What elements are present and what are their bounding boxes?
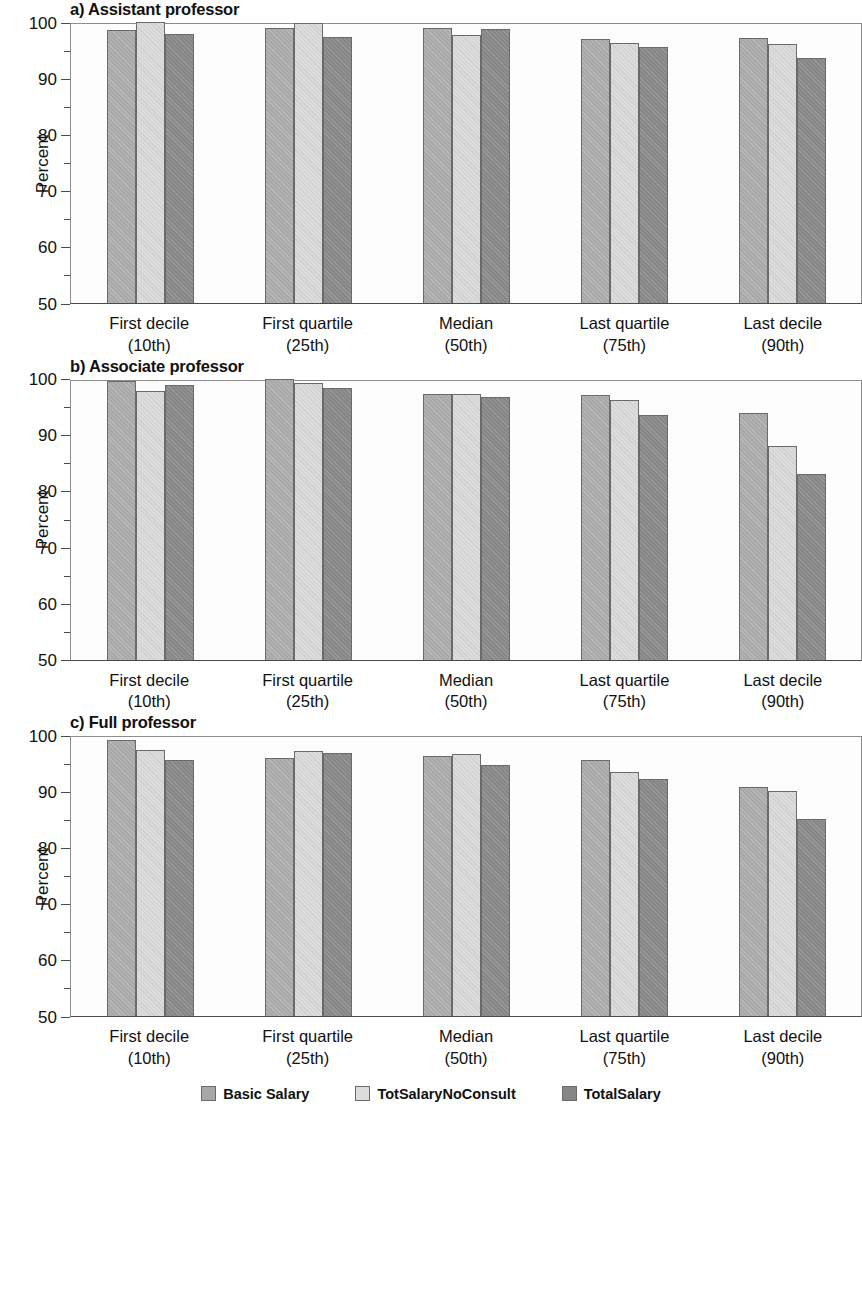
bar-a-3-1 (423, 28, 452, 303)
panel-c-group-1 (71, 737, 229, 1016)
legend-swatch-icon-1 (201, 1086, 216, 1101)
panel-b: b) Associate professor Percent 506070809… (0, 357, 862, 714)
bar-b-5-2 (768, 446, 797, 660)
legend-item-1: Basic Salary (201, 1086, 309, 1102)
panel-b-xlabel-4: Last quartile(75th) (545, 670, 703, 714)
bar-b-4-3 (639, 415, 668, 659)
legend-swatch-icon-3 (562, 1086, 577, 1101)
panel-b-xlabel-3: Median(50th) (387, 670, 545, 714)
xlabel-primary: First decile (109, 314, 189, 332)
panel-b-group-3 (387, 381, 545, 660)
panel-a-group-2 (229, 24, 387, 303)
xlabel-primary: Last quartile (579, 314, 669, 332)
panel-a-title: a) Assistant professor (70, 0, 862, 19)
legend-item-3: TotalSalary (562, 1086, 661, 1102)
xlabel-primary: First quartile (262, 314, 353, 332)
panel-c-group-4 (545, 737, 703, 1016)
bar-a-5-3 (797, 58, 826, 303)
bar-c-3-1 (423, 756, 452, 1016)
panel-b-group-4 (545, 381, 703, 660)
bar-a-4-1 (581, 39, 610, 303)
legend-label-2: TotSalaryNoConsult (377, 1086, 515, 1102)
panel-b-ytick-mark-60 (61, 604, 70, 605)
panel-c-bar-groups (71, 737, 861, 1016)
xlabel-secondary: (90th) (704, 1048, 862, 1070)
panel-b-xlabel-1: First decile(10th) (70, 670, 228, 714)
panel-b-ytick-label-70: 70 (38, 540, 57, 557)
panel-b-ytick-mark-100 (61, 379, 70, 380)
xlabel-primary: Last quartile (579, 671, 669, 689)
panel-b-ytick-mark-80 (61, 491, 70, 492)
bar-c-5-1 (739, 787, 768, 1016)
bar-b-3-1 (423, 394, 452, 659)
xlabel-primary: Median (439, 1027, 493, 1045)
panel-c-group-5 (703, 737, 861, 1016)
panel-b-plot-area (70, 380, 862, 661)
panel-b-bar-groups (71, 381, 861, 660)
xlabel-primary: Last decile (743, 671, 822, 689)
panel-b-title: b) Associate professor (70, 357, 862, 376)
bar-a-1-3 (165, 34, 194, 303)
xlabel-primary: Last quartile (579, 1027, 669, 1045)
bar-a-2-3 (323, 37, 352, 303)
panel-a-ytick-label-60: 60 (38, 239, 57, 256)
panel-c-xlabel-3: Median(50th) (387, 1026, 545, 1070)
panel-c-ytick-mark-100 (61, 736, 70, 737)
panel-c-ytick-label-60: 60 (38, 952, 57, 969)
panel-c-ytick-label-70: 70 (38, 896, 57, 913)
panel-a-group-5 (703, 24, 861, 303)
panel-c-axis-area: 5060708090100 (70, 736, 862, 1017)
panel-c-ytick-mark-80 (61, 848, 70, 849)
panel-a-ytick-mark-90 (61, 79, 70, 80)
xlabel-secondary: (90th) (704, 335, 862, 357)
panel-c-ytick-label-90: 90 (38, 784, 57, 801)
bar-a-2-1 (265, 28, 294, 303)
legend-swatch-icon-2 (355, 1086, 370, 1101)
bar-c-1-2 (136, 750, 165, 1016)
bar-c-1-1 (107, 740, 136, 1017)
xlabel-secondary: (10th) (70, 691, 228, 713)
xlabel-secondary: (75th) (545, 691, 703, 713)
panel-a-group-3 (387, 24, 545, 303)
panel-a-ytick-mark-80 (61, 135, 70, 136)
panel-a-xlabel-5: Last decile(90th) (704, 313, 862, 357)
panel-c-plot-area (70, 736, 862, 1017)
bar-b-2-3 (323, 388, 352, 660)
panel-b-xlabel-5: Last decile(90th) (704, 670, 862, 714)
panel-b-ytick-label-90: 90 (38, 427, 57, 444)
panel-c-ytick-label-50: 50 (38, 1009, 57, 1026)
xlabel-secondary: (25th) (228, 691, 386, 713)
xlabel-secondary: (50th) (387, 691, 545, 713)
panel-b-x-labels: First decile(10th)First quartile(25th)Me… (70, 670, 862, 714)
legend-label-3: TotalSalary (584, 1086, 661, 1102)
panel-b-ytick-label-50: 50 (38, 652, 57, 669)
panel-c-xlabel-4: Last quartile(75th) (545, 1026, 703, 1070)
bar-a-3-3 (481, 29, 510, 303)
bar-b-5-1 (739, 413, 768, 659)
panel-a-ytick-label-90: 90 (38, 71, 57, 88)
bar-b-3-3 (481, 397, 510, 660)
panel-a-bar-groups (71, 24, 861, 303)
panel-b-group-5 (703, 381, 861, 660)
panel-c-plot-wrap: Percent 5060708090100 (70, 736, 862, 1017)
bar-c-2-3 (323, 753, 352, 1017)
panel-a-xlabel-1: First decile(10th) (70, 313, 228, 357)
panel-b-group-1 (71, 381, 229, 660)
panel-c-ytick-mark-90 (61, 792, 70, 793)
panel-c-y-ticks: 5060708090100 (24, 736, 70, 1017)
panel-c-ytick-mark-50 (61, 1017, 70, 1018)
panel-a-ytick-mark-100 (61, 23, 70, 24)
panel-c-xlabel-5: Last decile(90th) (704, 1026, 862, 1070)
bar-c-5-2 (768, 791, 797, 1016)
panel-a: a) Assistant professor Percent 506070809… (0, 0, 862, 357)
panel-b-y-ticks: 5060708090100 (24, 380, 70, 661)
bar-b-1-1 (107, 381, 136, 660)
xlabel-secondary: (50th) (387, 1048, 545, 1070)
xlabel-secondary: (25th) (228, 1048, 386, 1070)
panel-a-plot-area (70, 23, 862, 304)
panel-c-ytick-mark-70 (61, 904, 70, 905)
xlabel-secondary: (50th) (387, 335, 545, 357)
bar-a-1-2 (136, 22, 165, 303)
xlabel-secondary: (10th) (70, 335, 228, 357)
panel-b-ytick-label-60: 60 (38, 596, 57, 613)
